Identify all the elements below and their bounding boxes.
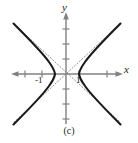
x-tick-label-positive-one: 1 xyxy=(76,76,81,85)
x-axis-arrowhead-right xyxy=(116,71,124,77)
x-axis-arrowhead-left xyxy=(11,71,19,77)
figure-caption: (c) xyxy=(0,126,138,136)
x-tick-label-negative-one: -1 xyxy=(35,76,43,85)
y-axis-label: y xyxy=(62,2,67,13)
x-axis-label: x xyxy=(124,64,129,75)
hyperbola-plot xyxy=(0,0,138,143)
hyperbola-figure: y x -1 1 (c) xyxy=(0,0,138,143)
y-axis-arrowhead xyxy=(63,12,69,20)
